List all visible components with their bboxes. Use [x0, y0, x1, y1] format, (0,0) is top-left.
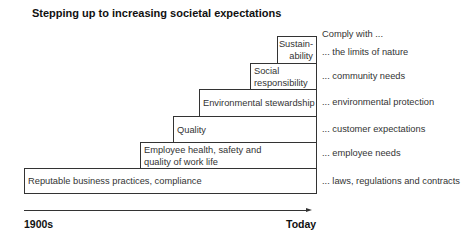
step-employee-health: Employee health, safety and quality of w…: [140, 142, 317, 169]
step-label: Environmental stewardship: [203, 97, 315, 109]
timeline-arrow: [24, 210, 306, 211]
timeline-start: 1900s: [24, 218, 53, 230]
step-label: Sustain-: [279, 38, 313, 50]
step-environmental-stewardship: Environmental stewardship: [199, 89, 317, 117]
expectation-customer: ... customer expectations: [322, 124, 425, 134]
step-quality: Quality: [173, 116, 317, 143]
diagram: Stepping up to increasing societal expec…: [0, 0, 473, 243]
step-label-line2: quality of work life: [144, 156, 218, 168]
expectation-laws: ... laws, regulations and contracts: [322, 176, 460, 186]
step-sustainability: Sustain- ability: [277, 36, 317, 64]
step-reputable-business: Reputable business practices, compliance: [24, 168, 317, 194]
step-label-line2: responsibility: [254, 77, 308, 89]
step-label: Social: [254, 65, 279, 77]
step-label: Reputable business practices, compliance: [28, 175, 202, 187]
step-social-responsibility: Social responsibility: [250, 63, 317, 90]
expectation-employee: ... employee needs: [322, 148, 401, 158]
comply-with-header: Comply with ...: [322, 29, 383, 39]
expectation-community: ... community needs: [322, 71, 405, 81]
expectation-environment: ... environmental protection: [322, 97, 434, 107]
step-label-line2: ability: [289, 50, 313, 62]
timeline-end: Today: [286, 218, 316, 230]
expectation-nature: ... the limits of nature: [322, 47, 408, 57]
step-label: Quality: [177, 124, 206, 136]
step-label: Employee health, safety and: [144, 144, 261, 156]
diagram-title: Stepping up to increasing societal expec…: [32, 7, 281, 19]
